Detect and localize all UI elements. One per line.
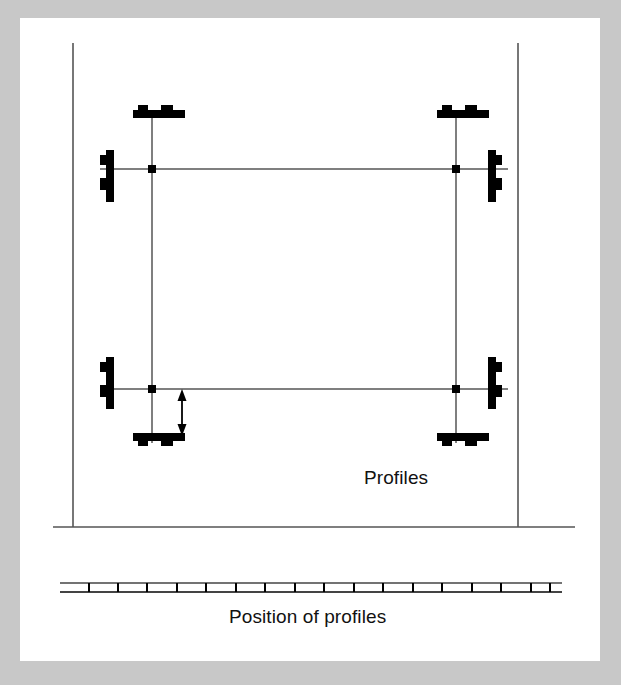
profile-bottom-left [133, 433, 185, 446]
node-top-right [452, 165, 460, 173]
profile-position-ruler [60, 583, 562, 592]
boundary-lines [53, 43, 575, 527]
dimension-arrow-head-up [178, 389, 187, 401]
grid-nodes [148, 165, 460, 393]
profiles-diagram [0, 0, 621, 685]
profile-right-top [488, 150, 502, 202]
spacing-dimension-arrow [178, 389, 187, 436]
position-of-profiles-caption: Position of profiles [229, 606, 386, 628]
profile-left-top [100, 150, 114, 202]
measurement-grid [100, 110, 508, 443]
profiles-label: Profiles [364, 467, 428, 489]
node-top-left [148, 165, 156, 173]
profile-bottom-right [437, 433, 489, 446]
profile-top-left [133, 105, 185, 118]
profile-top-right [437, 105, 489, 118]
profiles-group [100, 105, 502, 446]
profile-left-bottom [100, 357, 114, 409]
ruler-ticks [89, 583, 550, 592]
node-bottom-left [148, 385, 156, 393]
profile-right-bottom [488, 357, 502, 409]
node-bottom-right [452, 385, 460, 393]
